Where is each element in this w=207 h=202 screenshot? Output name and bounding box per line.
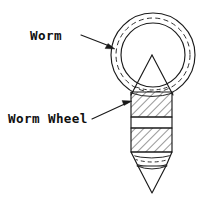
worm-label: Worm — [30, 28, 62, 43]
upper-band-hatch-fill — [131, 92, 172, 117]
worm-pitch-circle-dashed — [116, 18, 190, 92]
worm-wheel-label: Worm Wheel — [8, 111, 88, 126]
taper-band — [131, 152, 172, 166]
worm-wheel-shaft-group — [131, 92, 172, 152]
worm-gear-diagram: Worm Worm Wheel — [0, 0, 207, 202]
lower-band-hatch-fill — [131, 128, 172, 152]
diagram-canvas: Worm Worm Wheel — [0, 0, 207, 202]
tip-point-v — [138, 166, 166, 193]
cone-right-edge — [152, 55, 173, 95]
worm-outer-circle — [111, 13, 195, 97]
taper-arc-1 — [130, 155, 173, 158]
upper-hatched-band — [131, 92, 172, 117]
worm-wheel-leader-group — [92, 101, 132, 120]
worm-leader-group — [81, 35, 115, 49]
worm-ring-group — [111, 13, 195, 97]
worm-inner-circle — [121, 23, 185, 87]
tapered-tip-group — [130, 152, 173, 193]
taper-arc-dashed — [134, 159, 170, 162]
inner-cone-triangle-group — [131, 55, 173, 97]
lower-hatched-band — [131, 128, 172, 152]
cone-left-edge — [131, 55, 152, 95]
